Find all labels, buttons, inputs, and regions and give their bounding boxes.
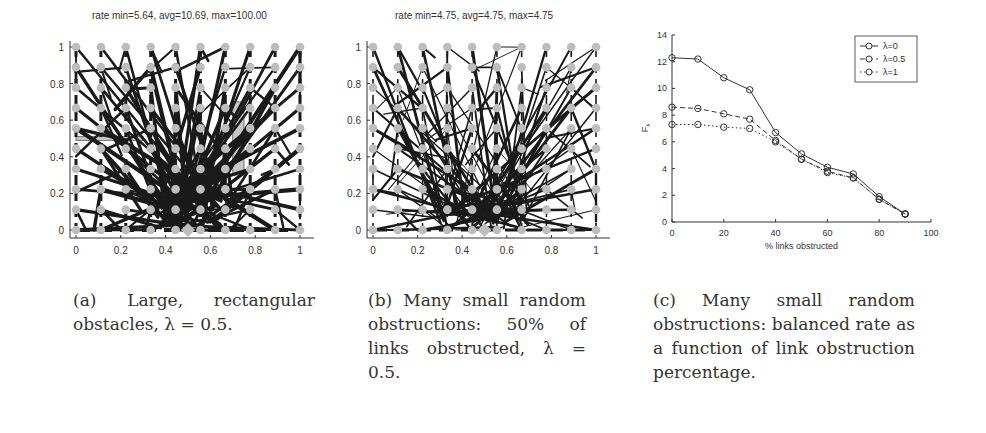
- caption-a: (a) Large, rectangular obstacles, λ = 0.…: [73, 288, 315, 336]
- data-point: [747, 125, 753, 131]
- y-tick-label: 14: [657, 30, 667, 40]
- x-tick-label: 60: [822, 228, 832, 238]
- legend-entry: λ=0.5: [883, 54, 905, 64]
- legend-entry: λ=1: [883, 67, 898, 77]
- panel-c-line-chart: 02040608010002468101214% links obstructe…: [0, 0, 986, 260]
- series-1: [669, 104, 909, 217]
- y-tick-label: 8: [662, 110, 667, 120]
- legend: λ=0λ=0.5λ=1: [855, 36, 917, 82]
- legend-entry: λ=0: [883, 41, 898, 51]
- x-tick-label: 100: [923, 228, 938, 238]
- y-tick-label: 0: [662, 217, 667, 227]
- y-tick-label: 10: [657, 83, 667, 93]
- caption-b: (b) Many small random obstructions: 50% …: [368, 288, 586, 384]
- caption-c: (c) Many small random obstructions: bala…: [653, 288, 915, 384]
- y-axis-label: Fλ: [640, 124, 651, 133]
- y-tick-label: 4: [662, 164, 667, 174]
- data-point: [850, 175, 856, 181]
- series-2: [669, 121, 909, 217]
- y-tick-label: 6: [662, 137, 667, 147]
- x-tick-label: 0: [669, 228, 674, 238]
- data-point: [721, 124, 727, 130]
- x-tick-label: 80: [874, 228, 884, 238]
- y-tick-label: 2: [662, 190, 667, 200]
- x-tick-label: 20: [719, 228, 729, 238]
- panel-c: 02040608010002468101214% links obstructe…: [0, 0, 986, 260]
- y-tick-label: 12: [657, 57, 667, 67]
- x-tick-label: 40: [771, 228, 781, 238]
- x-axis-label: % links obstructed: [765, 241, 838, 251]
